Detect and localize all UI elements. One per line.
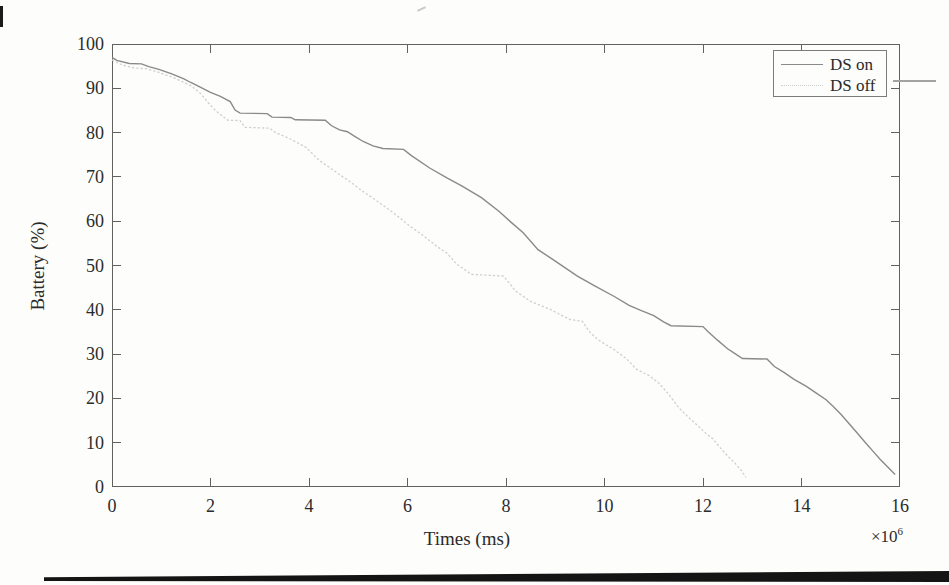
x-tick-label: 4 [285, 495, 333, 517]
legend-line-sample [781, 64, 823, 65]
scan-speck-artifact [417, 6, 426, 12]
y-tick-label: 50 [50, 255, 104, 277]
scanned-figure-page: 02468101214160102030405060708090100 Time… [0, 0, 949, 585]
y-tick-label: 80 [50, 122, 104, 144]
x-tick-mark-top [506, 45, 507, 53]
x-tick-label: 12 [679, 495, 727, 517]
y-tick-mark-left [113, 442, 121, 443]
y-tick-label: 0 [50, 476, 104, 498]
x-multiplier-base: ×10 [871, 527, 898, 546]
x-tick-label: 8 [482, 495, 530, 517]
y-tick-label: 30 [50, 343, 104, 365]
y-tick-label: 90 [50, 77, 104, 99]
scan-edge-artifact [0, 6, 3, 27]
y-tick-mark-right [891, 88, 899, 89]
y-tick-mark-left [113, 132, 121, 133]
x-tick-label: 14 [778, 495, 826, 517]
x-tick-mark-top [407, 45, 408, 53]
y-tick-label: 60 [50, 210, 104, 232]
y-tick-label: 100 [50, 33, 104, 55]
x-tick-label: 16 [876, 495, 924, 517]
legend-line-sample [781, 85, 823, 86]
y-tick-label: 10 [50, 432, 104, 454]
y-tick-mark-left [113, 221, 121, 222]
y-tick-mark-left [113, 265, 121, 266]
y-tick-mark-left [113, 354, 121, 355]
y-tick-mark-right [891, 221, 899, 222]
x-tick-mark-top [210, 45, 211, 53]
y-tick-mark-right [891, 265, 899, 266]
y-tick-mark-right [891, 176, 899, 177]
y-tick-mark-right [891, 442, 899, 443]
y-tick-mark-left [113, 309, 121, 310]
x-tick-mark-bottom [506, 478, 507, 486]
x-multiplier-exponent: 6 [898, 525, 904, 537]
y-tick-mark-left [113, 88, 121, 89]
x-tick-mark-top [604, 45, 605, 53]
series-line-ds-on [112, 57, 895, 474]
y-tick-label: 40 [50, 299, 104, 321]
x-tick-label: 0 [88, 495, 136, 517]
x-tick-label: 10 [581, 495, 629, 517]
x-tick-mark-bottom [703, 478, 704, 486]
x-tick-mark-top [309, 45, 310, 53]
y-tick-mark-right [891, 309, 899, 310]
y-tick-mark-right [891, 132, 899, 133]
y-tick-mark-left [113, 398, 121, 399]
x-tick-mark-bottom [309, 478, 310, 486]
legend-entry-label: DS on [830, 56, 873, 73]
series-line-ds-off [112, 60, 746, 477]
y-tick-label: 70 [50, 166, 104, 188]
x-axis-multiplier: ×106 [871, 525, 903, 547]
x-axis-title: Times (ms) [424, 528, 510, 550]
page-rule-bar [44, 570, 949, 583]
legend-entry: DS on [774, 54, 886, 75]
y-tick-label: 20 [50, 387, 104, 409]
x-tick-mark-bottom [407, 478, 408, 486]
x-tick-label: 6 [384, 495, 432, 517]
x-tick-mark-bottom [801, 478, 802, 486]
x-tick-mark-bottom [210, 478, 211, 486]
y-tick-mark-left [113, 176, 121, 177]
x-tick-label: 2 [187, 495, 235, 517]
y-tick-mark-right [891, 354, 899, 355]
x-tick-mark-top [703, 45, 704, 53]
y-axis-title: Battery (%) [27, 221, 49, 310]
legend-entry-label: DS off [830, 77, 876, 94]
line-chart-canvas [112, 44, 900, 487]
legend-entry: DS off [774, 75, 886, 96]
scan-line-artifact [893, 80, 936, 82]
legend: DS onDS off [773, 50, 887, 97]
y-tick-mark-right [891, 398, 899, 399]
x-tick-mark-bottom [604, 478, 605, 486]
